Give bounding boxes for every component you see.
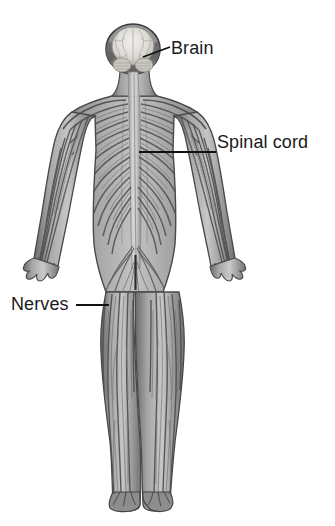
label-brain: Brain xyxy=(171,38,214,58)
anatomy-illustration xyxy=(0,0,335,526)
nervous-system-figure: Brain Spinal cord Nerves xyxy=(0,0,335,526)
spinal-cord-leader-line xyxy=(139,151,216,153)
label-spinal-cord: Spinal cord xyxy=(217,132,308,152)
label-nerves: Nerves xyxy=(11,294,69,314)
nerves-leader-line xyxy=(76,304,109,306)
